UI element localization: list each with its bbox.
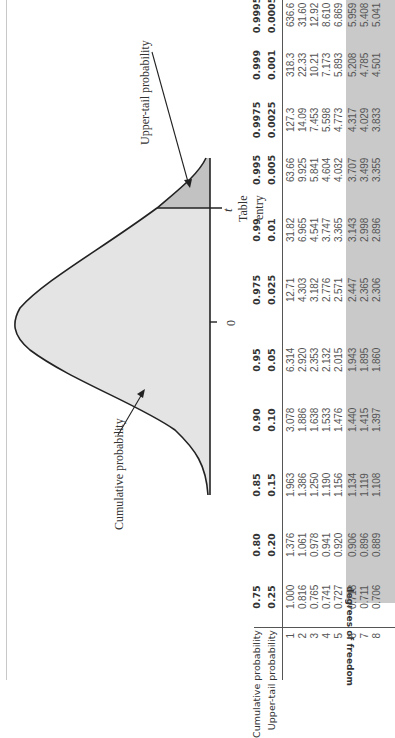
table-cell: 22.33 <box>297 53 308 77</box>
column-header-upper-tail: 0.0005 <box>266 0 277 33</box>
table-cell: 2.571 <box>333 278 344 302</box>
table-cell: 12.71 <box>285 278 296 302</box>
table-cell: 5.893 <box>333 53 344 77</box>
column-header-upper-tail: 0.25 <box>266 585 277 608</box>
table-cell: 2.306 <box>371 278 382 302</box>
table-cell: 31.82 <box>285 218 296 242</box>
cumulative-probability-row-label: Cumulative probability <box>251 630 262 680</box>
table-cell: 5.841 <box>309 158 320 182</box>
table-cell: 2.920 <box>297 348 308 372</box>
table-cell: 4.032 <box>333 158 344 182</box>
table-entry-label-line2: entry <box>252 195 267 220</box>
table-cell: 3.365 <box>333 218 344 242</box>
table-cell: 5.041 <box>371 3 382 27</box>
column-header-upper-tail: 0.005 <box>266 155 277 185</box>
table-cell: 5.598 <box>321 108 332 132</box>
table-cell: 0.889 <box>371 533 382 557</box>
table-cell: 1.134 <box>347 473 358 497</box>
df-value: 4 <box>321 633 332 647</box>
table-cell: 2.132 <box>321 348 332 372</box>
table-cell: 8.610 <box>321 3 332 27</box>
column-header-upper-tail: 0.01 <box>266 218 277 241</box>
t-distribution-curve-figure <box>0 0 240 680</box>
table-cell: 0.816 <box>297 585 308 609</box>
table-cell: 4.541 <box>309 218 320 242</box>
column-header-upper-tail: 0.0025 <box>266 102 277 139</box>
df-value: 6 <box>347 633 358 647</box>
table-cell: 1.895 <box>359 348 370 372</box>
df-value: 7 <box>359 633 370 647</box>
table-cell: 4.773 <box>333 108 344 132</box>
table-cell: 7.453 <box>309 108 320 132</box>
table-cell: 0.711 <box>359 585 370 608</box>
column-header-upper-tail: 0.001 <box>266 50 277 80</box>
table-cell: 4.501 <box>371 53 382 77</box>
column-header-cumulative: 0.99 <box>251 218 262 241</box>
table-cell: 1.119 <box>359 473 370 496</box>
table-cell: 6.965 <box>297 218 308 242</box>
column-header-cumulative: 0.85 <box>251 473 262 496</box>
df-value: 1 <box>285 633 296 647</box>
table-cell: 3.355 <box>371 158 382 182</box>
t-label: t <box>220 208 236 212</box>
table-header-rule <box>282 0 283 680</box>
upper-tail-probability-row-label: Upper-tail probability <box>266 630 277 680</box>
table-cell: 12.92 <box>309 3 320 27</box>
table-cell: 1.440 <box>347 408 358 432</box>
table-cell: 0.741 <box>321 585 332 609</box>
table-cell: 10.21 <box>309 53 320 77</box>
table-cell: 1.533 <box>321 408 332 432</box>
table-cell: 1.943 <box>347 348 358 372</box>
table-cell: 636.6 <box>285 3 296 27</box>
table-cell: 1.061 <box>297 533 308 557</box>
table-cell: 1.190 <box>321 473 332 497</box>
table-cell: 1.386 <box>297 473 308 497</box>
table-cell: 1.376 <box>285 533 296 557</box>
table-cell: 2.447 <box>347 278 358 302</box>
table-cell: 9.925 <box>297 158 308 182</box>
column-header-cumulative: 0.90 <box>251 408 262 431</box>
table-cell: 1.963 <box>285 473 296 497</box>
table-cell: 0.765 <box>309 585 320 609</box>
table-cell: 4.303 <box>297 278 308 302</box>
table-cell: 3.499 <box>359 158 370 182</box>
table-cell: 4.785 <box>359 53 370 77</box>
df-value: 8 <box>371 633 382 647</box>
table-cell: 5.959 <box>347 3 358 27</box>
table-cell: 1.250 <box>309 473 320 497</box>
table-cell: 0.727 <box>333 585 344 609</box>
zero-label: 0 <box>224 320 239 326</box>
table-cell: 2.365 <box>359 278 370 302</box>
table-cell: 14.09 <box>297 108 308 132</box>
table-cell: 0.978 <box>309 533 320 557</box>
df-value: 2 <box>297 633 308 647</box>
column-header-upper-tail: 0.025 <box>266 275 277 305</box>
table-cell: 4.029 <box>359 108 370 132</box>
table-cell: 0.920 <box>333 533 344 557</box>
table-cell: 0.706 <box>371 585 382 609</box>
table-cell: 3.182 <box>309 278 320 302</box>
table-cell: 2.776 <box>321 278 332 302</box>
table-cell: 3.833 <box>371 108 382 132</box>
table-cell: 0.718 <box>347 585 358 609</box>
table-cell: 3.707 <box>347 158 358 182</box>
table-cell: 4.317 <box>347 108 358 132</box>
table-cell: 318.3 <box>285 53 296 77</box>
table-cell: 1.108 <box>371 473 382 497</box>
table-cell: 7.173 <box>321 53 332 77</box>
df-value: 3 <box>309 633 320 647</box>
table-cell: 2.015 <box>333 348 344 372</box>
table-cell: 1.000 <box>285 585 296 609</box>
table-cell: 63.66 <box>285 158 296 182</box>
table-entry-label-line1: Table <box>236 196 251 222</box>
table-cell: 2.353 <box>309 348 320 372</box>
df-value: 5 <box>333 633 344 647</box>
column-header-upper-tail: 0.15 <box>266 473 277 496</box>
table-cell: 3.747 <box>321 218 332 242</box>
table-cell: 2.998 <box>359 218 370 242</box>
column-header-upper-tail: 0.20 <box>266 533 277 556</box>
table-cell: 6.314 <box>285 348 296 372</box>
table-cell: 1.638 <box>309 408 320 432</box>
column-header-cumulative: 0.9975 <box>251 102 262 139</box>
column-header-cumulative: 0.75 <box>251 585 262 608</box>
